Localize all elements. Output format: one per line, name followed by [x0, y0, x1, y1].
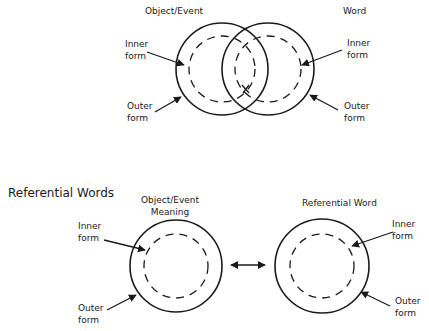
label-line: Inner: [78, 220, 101, 232]
referential-word-inner-circle: [290, 234, 354, 298]
top-left-outer-arrow: [155, 97, 181, 112]
label-line: Inner: [347, 37, 370, 49]
top-left-inner-label: Inner form: [125, 38, 148, 62]
top-right-inner-label: Inner form: [347, 37, 370, 61]
bottom-right-title: Referential Word: [302, 197, 377, 209]
label-line: Outer: [395, 295, 421, 307]
bottom-right-outer-arrow: [361, 292, 390, 306]
label-line: Outer: [127, 100, 153, 112]
top-right-inner-arrow: [302, 50, 342, 65]
top-left-outer-label: Outer form: [127, 100, 153, 124]
bottom-right-inner-arrow: [352, 232, 393, 246]
label-line: form: [125, 50, 148, 62]
top-right-outer-label: Outer form: [344, 100, 370, 124]
label-line: form: [78, 314, 104, 326]
label-line: form: [347, 49, 370, 61]
bottom-left-inner-label: Inner form: [78, 220, 101, 244]
top-venn: [147, 23, 342, 115]
bottom-diagram: [104, 219, 393, 313]
label-line: Outer: [344, 100, 370, 112]
bottom-right-outer-label: Outer form: [395, 295, 421, 319]
label-line: form: [78, 232, 101, 244]
meaning-inner-circle: [144, 234, 208, 298]
bottom-right-inner-label: Inner form: [392, 218, 415, 242]
bottom-left-outer-label: Outer form: [78, 302, 104, 326]
referential-word-outer-circle: [275, 219, 369, 313]
label-line: form: [127, 112, 153, 124]
label-line: Inner: [392, 218, 415, 230]
label-line: Object/Event: [120, 194, 220, 206]
label-line: Outer: [78, 302, 104, 314]
label-line: form: [395, 307, 421, 319]
label-line: Inner: [125, 38, 148, 50]
label-line: form: [392, 230, 415, 242]
top-right-outer-arrow: [310, 95, 338, 110]
top-right-title: Word: [343, 5, 366, 17]
bottom-left-outer-arrow: [107, 295, 136, 310]
label-line: form: [344, 112, 370, 124]
label-line: Meaning: [120, 206, 220, 218]
section-title: Referential Words: [8, 186, 114, 200]
bottom-left-title: Object/Event Meaning: [120, 194, 220, 218]
top-left-title: Object/Event: [145, 5, 203, 17]
bottom-left-inner-arrow: [104, 240, 145, 250]
